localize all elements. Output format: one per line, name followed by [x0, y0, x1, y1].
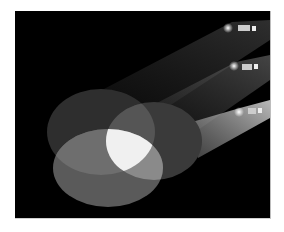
- spotlight-scene: [0, 0, 284, 232]
